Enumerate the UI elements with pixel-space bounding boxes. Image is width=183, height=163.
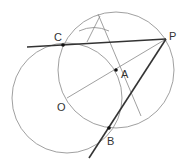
label-A: A	[121, 68, 129, 80]
label-P: P	[169, 30, 176, 42]
point-A	[114, 68, 118, 72]
tangent-line-PB	[89, 39, 166, 158]
tangent-line-PC	[27, 39, 166, 47]
bisector-crossing-line	[87, 16, 100, 42]
label-B: B	[107, 135, 114, 147]
label-O: O	[57, 101, 66, 113]
point-C	[61, 43, 65, 47]
geometry-diagram: C P A O B	[0, 0, 183, 163]
point-B	[107, 126, 111, 130]
label-C: C	[54, 31, 62, 43]
perpendicular-bisector	[98, 14, 141, 116]
